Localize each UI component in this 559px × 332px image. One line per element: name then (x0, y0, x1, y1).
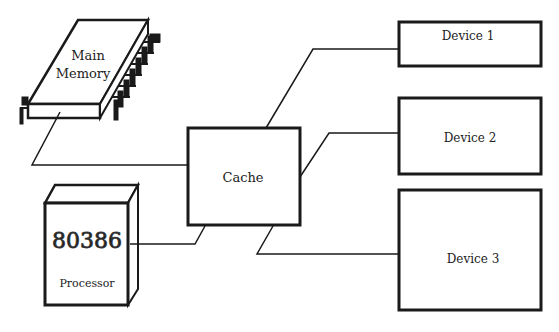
device3-label: Device 3 (447, 252, 500, 266)
device2-node: Device 2 (399, 98, 541, 174)
processor-node: 80386 Processor (45, 185, 138, 305)
device3-node: Device 3 (399, 190, 541, 310)
processor-to-cache-line (130, 226, 205, 244)
processor-chip-label: 80386 (52, 228, 122, 253)
processor-label: Processor (59, 277, 115, 290)
device1-node: Device 1 (399, 22, 541, 66)
device1-label: Device 1 (442, 29, 495, 43)
cache-to-device1-line (266, 49, 399, 128)
cache-label: Cache (222, 170, 263, 185)
main-memory-label-line1: Main (71, 48, 105, 63)
cache-to-device2-line (300, 133, 399, 177)
cache-node: Cache (188, 128, 300, 225)
main-memory-node: Main Memory (20, 20, 160, 124)
device2-label: Device 2 (444, 131, 497, 145)
diagram-canvas: Main Memory 80386 Processor Cache Device… (0, 0, 559, 332)
main-memory-label-line2: Memory (56, 66, 111, 81)
cache-to-device3-line (257, 226, 399, 254)
memory-to-cache-line (32, 112, 188, 165)
